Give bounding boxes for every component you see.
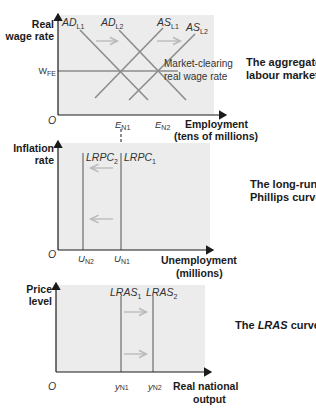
curve-label-lrpc2: LRPC2 [86,151,118,165]
x-tick-un2: UN2 [78,253,94,265]
panel-lras-curve: Price level O LRAS1 LRAS2 yN1 yN2 Real n… [26,283,316,405]
x-axis-label: Employment [185,118,249,130]
svg-text:labour market: labour market [246,69,316,81]
svg-text:(tens of millions): (tens of millions) [174,130,258,142]
panel-phillips-curve: Inflation rate O LRPC2 LRPC1 UN2 UN1 Une… [13,141,316,279]
y-tick-wfe: WFE [39,66,57,77]
y-axis-label: Real [32,18,54,30]
panel-background [56,285,205,372]
diagram-canvas: Real wage rate WFE O ADL1 ADL2 ASL1 ASL2… [0,0,316,411]
panel-title: The LRAS curve [235,319,316,331]
origin-label: O [48,380,56,392]
origin-label: O [48,114,56,126]
origin-label: O [48,248,56,260]
annotation-market-clearing: Market-clearing [164,58,233,69]
svg-text:rate: rate [35,154,54,166]
y-axis-label: Price [26,283,52,295]
svg-text:(millions): (millions) [176,267,223,279]
x-axis-label: Unemployment [161,254,237,266]
curve-label-lrpc1: LRPC1 [124,151,156,165]
x-tick-yn2: yN2 [147,381,162,392]
svg-text:wage rate: wage rate [5,30,55,42]
x-tick-en2: EN2 [155,119,170,131]
svg-text:output: output [193,393,226,405]
y-axis-label: Inflation [13,142,54,154]
svg-text:Phillips curve: Phillips curve [250,191,316,203]
svg-text:real wage rate: real wage rate [164,71,228,82]
x-tick-yn1: yN1 [114,381,129,392]
panel-labour-market: Real wage rate WFE O ADL1 ADL2 ASL1 ASL2… [5,14,316,142]
curve-label-lras2: LRAS2 [146,286,177,300]
curve-label-lras1: LRAS1 [110,286,141,300]
svg-text:level: level [29,295,52,307]
panel-title: The long-run [250,178,316,190]
panel-title: The aggregate [246,56,316,68]
x-tick-un1: UN1 [114,253,130,265]
x-axis-label: Real national [173,380,238,392]
svg-text:Real: Real [32,18,54,30]
x-tick-en1: EN1 [115,119,130,131]
